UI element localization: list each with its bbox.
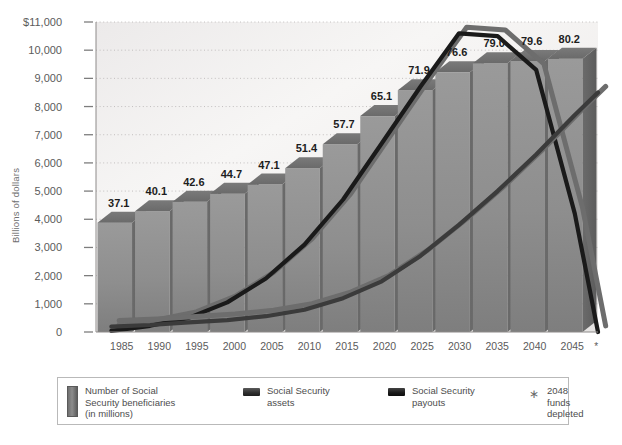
- x-axis-tick-2015: 2015: [335, 340, 358, 352]
- chart-legend: Number of Social Security beneficiaries …: [57, 377, 569, 425]
- x-axis-tick-2005: 2005: [260, 340, 283, 352]
- bar-value-label-2005: 47.1: [258, 159, 279, 171]
- legend-item-3: ∗2048 funds depleted: [528, 385, 583, 420]
- x-axis-tick-1985: 1985: [110, 340, 133, 352]
- legend-label-0: Number of Social Security beneficiaries …: [85, 385, 175, 420]
- x-axis-tick-2025: 2025: [410, 340, 433, 352]
- x-axis-tick-1990: 1990: [148, 340, 171, 352]
- bar-value-label-1990: 40.1: [146, 185, 167, 197]
- bar-swatch: [67, 386, 78, 417]
- chart-container: Billions of dollars 01,0002,0003,0004,00…: [0, 0, 622, 445]
- x-axis-tick-2020: 2020: [373, 340, 396, 352]
- line-swatch-payouts: [388, 388, 405, 396]
- bar-value-label-1995: 42.6: [183, 176, 204, 188]
- legend-label-3: 2048 funds depleted: [547, 385, 583, 420]
- bar-value-label-1985: 37.1: [108, 197, 129, 209]
- bar-value-label-2030: 76.6: [446, 46, 467, 58]
- x-axis-tick-2040: 2040: [523, 340, 546, 352]
- bar-value-label-2000: 44.7: [221, 168, 242, 180]
- x-axis-tick-2030: 2030: [448, 340, 471, 352]
- x-axis-tick-1995: 1995: [185, 340, 208, 352]
- legend-item-1: Social Security assets: [243, 385, 330, 408]
- bar-value-label-2025: 71.9: [408, 64, 429, 76]
- bar-value-label-2045: 80.2: [559, 33, 580, 45]
- bar-value-label-2010: 51.4: [296, 142, 317, 154]
- bar-value-label-2035: 79.0: [483, 37, 504, 49]
- legend-item-2: Social Security payouts: [388, 385, 475, 408]
- x-axis-footnote-asterisk: *: [594, 341, 598, 352]
- x-axis-tick-2045: 2045: [561, 340, 584, 352]
- bar-value-label-2040: 79.6: [521, 35, 542, 47]
- bar-value-label-2020: 65.1: [371, 90, 392, 102]
- bar-value-label-2015: 57.7: [333, 118, 354, 130]
- asterisk-marker-icon: ∗: [528, 387, 540, 420]
- legend-item-0: Number of Social Security beneficiaries …: [67, 385, 175, 420]
- legend-label-1: Social Security assets: [267, 385, 330, 408]
- x-axis-tick-2010: 2010: [298, 340, 321, 352]
- legend-label-2: Social Security payouts: [412, 385, 475, 408]
- x-axis-tick-2035: 2035: [485, 340, 508, 352]
- line-swatch-assets: [243, 388, 260, 396]
- x-axis-tick-2000: 2000: [223, 340, 246, 352]
